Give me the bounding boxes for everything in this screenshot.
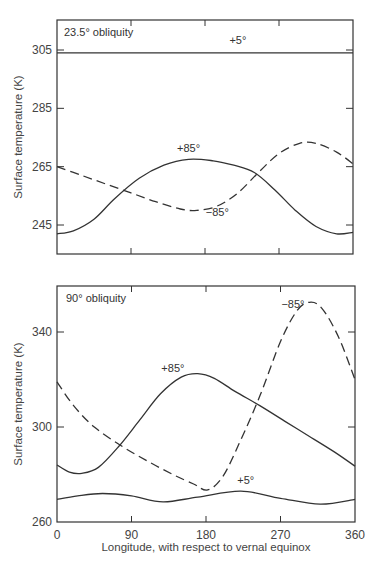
- series-bottom: [57, 302, 355, 504]
- x-tick-label: 180: [196, 528, 216, 542]
- y-tick-label: 285: [32, 101, 52, 115]
- x-tick-label: 270: [270, 528, 290, 542]
- x-tick-label: 0: [54, 528, 61, 542]
- y-tick-label: 265: [32, 160, 52, 174]
- y-tick-label: 245: [32, 218, 52, 232]
- series-annotation: −85°: [281, 298, 304, 310]
- series-line-85-north: [57, 374, 355, 474]
- y-tick-label: 260: [32, 515, 52, 529]
- series-line-85-north: [57, 159, 353, 234]
- x-ticks-top: [131, 20, 279, 254]
- panel-title-bottom: 90° obliquity: [66, 292, 127, 304]
- y-tick-label: 305: [32, 43, 52, 57]
- chart: 245265285305 +5°+85°−85° 23.5° obliquity…: [0, 0, 380, 563]
- y-axis-label-bottom: Surface temperature (K): [12, 342, 24, 466]
- x-axis-label: Longitude, with respect to vernal equino…: [101, 541, 310, 553]
- y-ticks-bottom: 260300340: [32, 325, 355, 529]
- series-annotation: +85°: [177, 142, 200, 154]
- y-axis-label-top: Surface temperature (K): [12, 75, 24, 199]
- y-ticks-top: 245265285305: [32, 43, 353, 232]
- series-annotation: +5°: [237, 474, 254, 486]
- panel-90-obliquity: 090180270360 260300340 +85°−85°+5° 90° o…: [12, 286, 365, 553]
- x-tick-label: 90: [125, 528, 139, 542]
- panel-title-top: 23.5° obliquity: [64, 26, 134, 38]
- annotations-top: +5°+85°−85°: [177, 34, 246, 218]
- series-line-5-north: [57, 491, 355, 504]
- y-tick-label: 340: [32, 325, 52, 339]
- series-annotation: +5°: [229, 34, 246, 46]
- series-line-85-south: [57, 142, 353, 210]
- panel-23-5-obliquity: 245265285305 +5°+85°−85° 23.5° obliquity…: [12, 20, 353, 254]
- series-annotation: +85°: [161, 362, 184, 374]
- x-tick-label: 360: [345, 528, 365, 542]
- plot-frame-bottom: [57, 286, 355, 522]
- y-tick-label: 300: [32, 420, 52, 434]
- series-annotation: −85°: [206, 206, 229, 218]
- series-line-85-south: [57, 302, 355, 490]
- plot-frame-top: [57, 20, 353, 254]
